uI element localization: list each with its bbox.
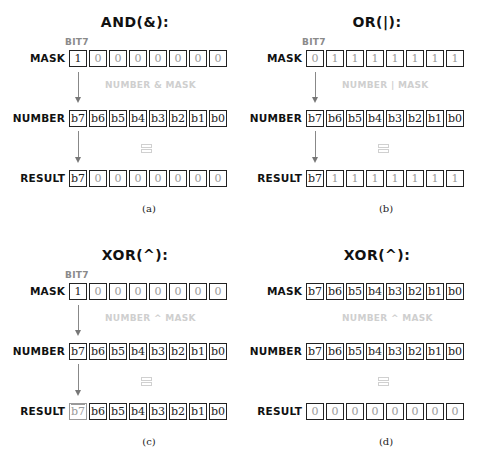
equals-icon bbox=[378, 377, 388, 387]
result-row-label: RESULT bbox=[5, 405, 65, 417]
negated-bit-text: b7 bbox=[71, 405, 85, 418]
result-bit-cell: b5 bbox=[109, 403, 127, 420]
result-row-label: RESULT bbox=[242, 405, 302, 417]
result-bit-cell: b3 bbox=[149, 403, 167, 420]
number-bit-cell: b5 bbox=[109, 110, 127, 127]
mask-bit-cell: 1 bbox=[69, 283, 87, 300]
number-bit-cell: b5 bbox=[346, 110, 364, 127]
mask-bit-cell: b2 bbox=[406, 283, 424, 300]
mask-bit-cell: 1 bbox=[406, 50, 424, 67]
mask-bit-cell: 0 bbox=[209, 283, 227, 300]
mask-bit-cell: 0 bbox=[306, 50, 324, 67]
number-bit-cell: b1 bbox=[426, 343, 444, 360]
result-bit-cell: 1 bbox=[426, 170, 444, 187]
mask-bit-cell: 1 bbox=[326, 50, 344, 67]
mask-bit-cell: b0 bbox=[446, 283, 464, 300]
panel-a: AND(&):BIT7MASK10000000NUMBERb7b6b5b4b3b… bbox=[0, 0, 242, 230]
panel-c: XOR(^):BIT7MASK10000000NUMBERb7b6b5b4b3b… bbox=[0, 233, 242, 463]
result-bit-cell: 0 bbox=[366, 403, 384, 420]
panel-caption: (d) bbox=[252, 436, 476, 447]
number-bit-cell: b1 bbox=[426, 110, 444, 127]
mask-bit-cell: 0 bbox=[189, 283, 207, 300]
operation-label: NUMBER & MASK bbox=[105, 80, 196, 90]
number-bit-cell: b4 bbox=[366, 343, 384, 360]
mask-bit-cell: 0 bbox=[149, 283, 167, 300]
mask-bit-cell: 0 bbox=[89, 50, 107, 67]
number-bit-cell: b1 bbox=[189, 110, 207, 127]
number-row: b7b6b5b4b3b2b1b0 bbox=[69, 110, 227, 127]
result-bit-cell: 0 bbox=[209, 170, 227, 187]
panel-caption: (a) bbox=[10, 203, 239, 214]
mask-row: 10000000 bbox=[69, 50, 227, 67]
mask-row-label: MASK bbox=[5, 285, 65, 297]
mask-bit-cell: 1 bbox=[69, 50, 87, 67]
result-bit-cell: b1 bbox=[189, 403, 207, 420]
number-bit-cell: b2 bbox=[406, 110, 424, 127]
result-row-label: RESULT bbox=[242, 172, 302, 184]
result-bit-cell: 0 bbox=[406, 403, 424, 420]
result-bit-cell: 1 bbox=[446, 170, 464, 187]
mask-row: 01111111 bbox=[306, 50, 464, 67]
result-row: b70000000 bbox=[69, 170, 227, 187]
number-bit-cell: b2 bbox=[169, 110, 187, 127]
number-bit-cell: b0 bbox=[209, 110, 227, 127]
mask-bit-cell: b1 bbox=[426, 283, 444, 300]
bit7-label: BIT7 bbox=[65, 37, 89, 47]
arrow-down-icon bbox=[78, 72, 79, 98]
panel-title: XOR(^): bbox=[14, 247, 256, 263]
result-bit-cell: 1 bbox=[366, 170, 384, 187]
mask-row-label: MASK bbox=[5, 52, 65, 64]
result-bit-cell: 0 bbox=[189, 170, 207, 187]
number-row: b7b6b5b4b3b2b1b0 bbox=[306, 343, 464, 360]
result-bit-cell: 0 bbox=[426, 403, 444, 420]
number-bit-cell: b0 bbox=[446, 343, 464, 360]
mask-bit-cell: 0 bbox=[109, 50, 127, 67]
mask-bit-cell: 1 bbox=[346, 50, 364, 67]
number-bit-cell: b0 bbox=[209, 343, 227, 360]
result-bit-cell: 0 bbox=[326, 403, 344, 420]
mask-row: b7b6b5b4b3b2b1b0 bbox=[306, 283, 464, 300]
mask-bit-cell: 0 bbox=[169, 283, 187, 300]
mask-bit-cell: 0 bbox=[169, 50, 187, 67]
mask-bit-cell: b3 bbox=[386, 283, 404, 300]
arrow-down-icon bbox=[315, 131, 316, 158]
result-bit-cell: b7 bbox=[69, 170, 87, 187]
result-row: b71111111 bbox=[306, 170, 464, 187]
mask-bit-cell: 0 bbox=[109, 283, 127, 300]
panel-title: OR(|): bbox=[256, 14, 485, 30]
panel-caption: (b) bbox=[252, 203, 476, 214]
mask-row: 10000000 bbox=[69, 283, 227, 300]
number-bit-cell: b6 bbox=[89, 110, 107, 127]
number-bit-cell: b5 bbox=[109, 343, 127, 360]
number-bit-cell: b4 bbox=[129, 343, 147, 360]
number-bit-cell: b6 bbox=[326, 110, 344, 127]
operation-label: NUMBER | MASK bbox=[342, 80, 429, 90]
result-bit-cell: 1 bbox=[326, 170, 344, 187]
result-bit-cell: 0 bbox=[446, 403, 464, 420]
number-bit-cell: b0 bbox=[446, 110, 464, 127]
result-row: 00000000 bbox=[306, 403, 464, 420]
mask-bit-cell: 0 bbox=[129, 283, 147, 300]
number-bit-cell: b2 bbox=[169, 343, 187, 360]
number-bit-cell: b3 bbox=[149, 343, 167, 360]
number-bit-cell: b5 bbox=[346, 343, 364, 360]
number-bit-cell: b7 bbox=[306, 343, 324, 360]
mask-bit-cell: 0 bbox=[209, 50, 227, 67]
arrow-down-icon bbox=[78, 131, 79, 158]
number-row: b7b6b5b4b3b2b1b0 bbox=[69, 343, 227, 360]
mask-bit-cell: 1 bbox=[386, 50, 404, 67]
result-bit-cell: 0 bbox=[89, 170, 107, 187]
result-bit-cell: 0 bbox=[306, 403, 324, 420]
result-bit-cell: b7 bbox=[306, 170, 324, 187]
bit7-label: BIT7 bbox=[302, 37, 326, 47]
panel-d: XOR(^):MASKb7b6b5b4b3b2b1b0NUMBERb7b6b5b… bbox=[242, 233, 484, 463]
number-row-label: NUMBER bbox=[242, 345, 302, 357]
mask-row-label: MASK bbox=[242, 52, 302, 64]
result-bit-cell: b7 bbox=[69, 403, 87, 420]
number-bit-cell: b4 bbox=[366, 110, 384, 127]
bit7-label: BIT7 bbox=[65, 270, 89, 280]
number-row-label: NUMBER bbox=[5, 112, 65, 124]
number-bit-cell: b2 bbox=[406, 343, 424, 360]
panel-title: XOR(^): bbox=[256, 247, 485, 263]
operation-label: NUMBER ^ MASK bbox=[105, 313, 196, 323]
